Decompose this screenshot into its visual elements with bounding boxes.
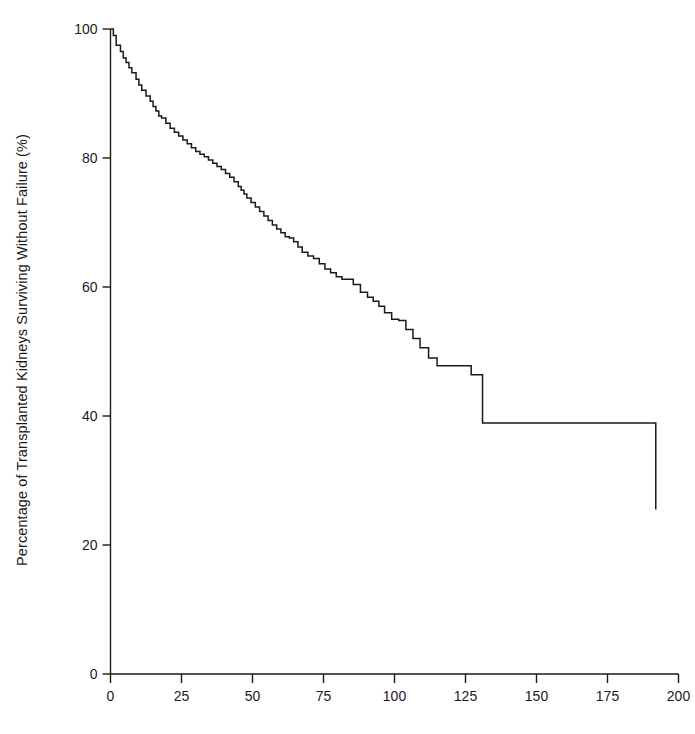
y-tick-label: 100 — [74, 21, 98, 37]
x-tick-label: 150 — [525, 688, 549, 704]
survival-curve-line — [111, 29, 656, 510]
y-tick-label: 0 — [90, 666, 98, 682]
x-tick-label: 125 — [454, 688, 478, 704]
axes — [111, 29, 679, 674]
x-tick-label: 100 — [383, 688, 407, 704]
y-tick-label: 20 — [82, 537, 98, 553]
y-tick-label: 80 — [82, 150, 98, 166]
kaplan-meier-figure: Percentage of Transplanted Kidneys Survi… — [0, 0, 695, 734]
tick-marks — [103, 29, 679, 683]
plot-area: 0204060801000255075100125150175200 — [0, 0, 695, 734]
x-tick-label: 50 — [245, 688, 261, 704]
y-tick-label: 60 — [82, 279, 98, 295]
survival-curve — [111, 29, 656, 510]
x-tick-label: 25 — [174, 688, 190, 704]
x-tick-label: 175 — [596, 688, 620, 704]
y-tick-label: 40 — [82, 408, 98, 424]
x-tick-label: 200 — [667, 688, 691, 704]
x-tick-label: 75 — [316, 688, 332, 704]
x-tick-label: 0 — [107, 688, 115, 704]
